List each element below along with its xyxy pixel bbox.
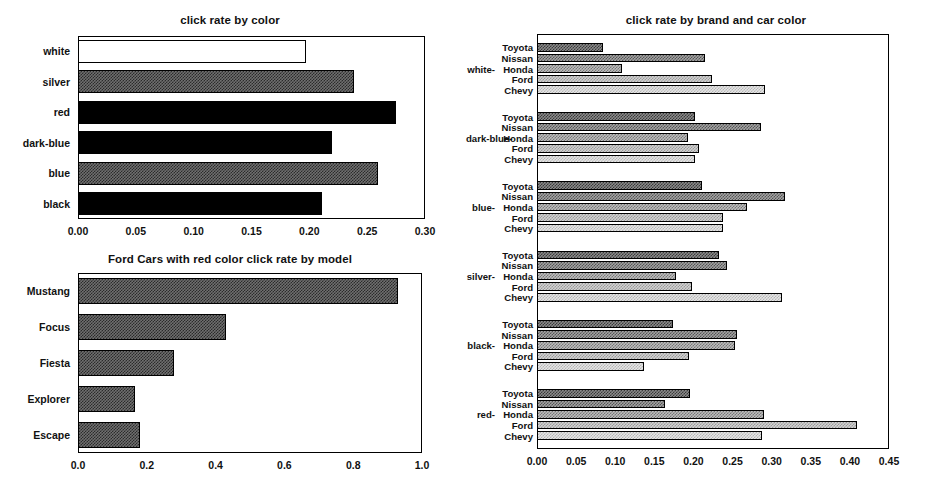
bar-silver-ford: [537, 282, 692, 291]
y-tick-white: white: [0, 45, 70, 57]
bar-black-honda: [537, 341, 735, 350]
bar-red-chevy: [537, 431, 762, 440]
bar-focus: [78, 314, 226, 340]
x-tick-0.0: 0.0: [71, 459, 86, 471]
bar-white-toyota: [537, 43, 603, 52]
bar-red: [78, 101, 396, 124]
x-tick-0.10: 0.10: [183, 225, 203, 237]
bar-blue: [78, 162, 378, 185]
x-tick-0.30: 0.30: [415, 225, 435, 237]
x-tick-0.25: 0.25: [357, 225, 377, 237]
group-label-blue: blue-: [466, 201, 495, 212]
bar-dark-blue-toyota: [537, 112, 695, 121]
x-tick-0.00: 0.00: [68, 225, 88, 237]
x-tick-0.40: 0.40: [840, 455, 860, 467]
y-tick-silver: silver: [0, 76, 70, 88]
y-tick-fiesta: Fiesta: [0, 357, 70, 369]
x-tick-0.25: 0.25: [722, 455, 742, 467]
x-tick-0.00: 0.00: [527, 455, 547, 467]
brand-label-dark-blue-chevy: Chevy: [466, 153, 533, 164]
bar-white-ford: [537, 75, 712, 84]
y-tick-escape: Escape: [0, 429, 70, 441]
brand-label-red-ford: Ford: [466, 420, 533, 431]
x-tick-0.30: 0.30: [761, 455, 781, 467]
x-tick-0.15: 0.15: [644, 455, 664, 467]
bar-white-honda: [537, 64, 622, 73]
x-tick-0.20: 0.20: [683, 455, 703, 467]
bar-silver: [78, 70, 354, 93]
bar-black-ford: [537, 352, 689, 361]
bar-red-nissan: [537, 400, 665, 409]
bar-dark-blue-nissan: [537, 123, 761, 132]
bar-blue-nissan: [537, 192, 785, 201]
chart-title: Ford Cars with red color click rate by m…: [0, 253, 460, 265]
brand-label-blue-toyota: Toyota: [466, 180, 533, 191]
y-tick-dark-blue: dark-blue: [0, 137, 70, 149]
brand-label-silver-toyota: Toyota: [466, 249, 533, 260]
chart-title: click rate by brand and car color: [506, 14, 926, 26]
brand-label-blue-nissan: Nissan: [466, 191, 533, 202]
brand-label-white-nissan: Nissan: [466, 52, 533, 63]
group-label-black: black-: [466, 340, 495, 351]
chart-title: click rate by color: [0, 14, 460, 26]
bar-white-chevy: [537, 85, 765, 94]
bar-dark-blue-ford: [537, 144, 699, 153]
bar-explorer: [78, 386, 135, 412]
group-label-red: red-: [466, 409, 495, 420]
group-label-dark-blue: dark-blue-: [466, 132, 495, 143]
x-tick-0.20: 0.20: [299, 225, 319, 237]
chart-ford-red-by-model: Ford Cars with red color click rate by m…: [0, 253, 460, 492]
x-tick-0.15: 0.15: [241, 225, 261, 237]
y-tick-blue: blue: [0, 167, 70, 179]
bar-blue-chevy: [537, 224, 723, 233]
bar-mustang: [78, 278, 398, 304]
brand-label-black-chevy: Chevy: [466, 361, 533, 372]
bar-black-chevy: [537, 362, 644, 371]
bar-red-ford: [537, 421, 857, 430]
bar-fiesta: [78, 350, 174, 376]
x-tick-0.4: 0.4: [208, 459, 223, 471]
x-tick-0.6: 0.6: [277, 459, 292, 471]
bar-white-nissan: [537, 54, 705, 63]
bar-blue-toyota: [537, 181, 702, 190]
brand-label-red-chevy: Chevy: [466, 430, 533, 441]
brand-label-black-nissan: Nissan: [466, 329, 533, 340]
group-label-silver: silver-: [466, 271, 495, 282]
bar-white: [78, 40, 306, 63]
y-tick-black: black: [0, 198, 70, 210]
y-tick-red: red: [0, 106, 70, 118]
x-tick-0.35: 0.35: [801, 455, 821, 467]
y-tick-mustang: Mustang: [0, 285, 70, 297]
group-label-white: white-: [466, 63, 495, 74]
y-tick-explorer: Explorer: [0, 393, 70, 405]
brand-label-white-toyota: Toyota: [466, 42, 533, 53]
bar-dark-blue-chevy: [537, 155, 695, 164]
brand-label-black-ford: Ford: [466, 350, 533, 361]
x-tick-0.10: 0.10: [605, 455, 625, 467]
brand-label-dark-blue-toyota: Toyota: [466, 111, 533, 122]
brand-label-red-nissan: Nissan: [466, 398, 533, 409]
bar-dark-blue-honda: [537, 133, 688, 142]
chart-click-rate-by-color: click rate by color blackbluedark-bluere…: [0, 14, 460, 246]
x-tick-1.0: 1.0: [415, 459, 430, 471]
x-tick-0.2: 0.2: [139, 459, 154, 471]
brand-label-dark-blue-ford: Ford: [466, 143, 533, 154]
brand-label-white-ford: Ford: [466, 74, 533, 85]
brand-label-blue-ford: Ford: [466, 212, 533, 223]
bar-blue-honda: [537, 203, 747, 212]
brand-label-blue-chevy: Chevy: [466, 223, 533, 234]
plot-area: [537, 34, 889, 449]
brand-label-silver-chevy: Chevy: [466, 292, 533, 303]
chart-click-rate-by-brand-and-car-color: click rate by brand and car color Toyota…: [466, 14, 926, 492]
bar-silver-honda: [537, 272, 676, 281]
bar-silver-nissan: [537, 261, 727, 270]
bar-silver-chevy: [537, 293, 782, 302]
x-tick-0.05: 0.05: [126, 225, 146, 237]
bar-red-toyota: [537, 389, 690, 398]
brand-label-dark-blue-nissan: Nissan: [466, 122, 533, 133]
x-tick-0.05: 0.05: [566, 455, 586, 467]
brand-label-white-chevy: Chevy: [466, 84, 533, 95]
brand-label-red-toyota: Toyota: [466, 388, 533, 399]
bar-black: [78, 192, 322, 215]
x-tick-0.8: 0.8: [346, 459, 361, 471]
